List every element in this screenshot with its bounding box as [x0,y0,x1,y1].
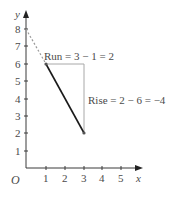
y-tick-label-6: 6 [15,58,21,70]
origin-label: O [11,173,20,187]
run-annotation: Run = 3 − 1 = 2 [44,50,114,62]
point-3-2 [82,131,85,134]
slope-diagram: 1 2 3 4 5 1 2 3 4 5 6 7 8 y x O Run = 3 … [0,0,182,201]
point-1-6 [44,62,47,65]
dashed-extension [26,29,46,64]
y-tick-label-4: 4 [15,93,21,105]
x-axis-label: x [135,172,141,184]
x-axis-arrow-icon [135,165,143,171]
x-tick-label-3: 3 [81,172,87,184]
rise-annotation: Rise = 2 − 6 = −4 [88,94,166,106]
y-tick-label-3: 3 [15,110,21,122]
y-tick-label-5: 5 [15,75,21,87]
x-tick-label-5: 5 [118,172,124,184]
x-tick-label-1: 1 [43,172,49,184]
x-tick-label-4: 4 [99,172,105,184]
y-tick-label-1: 1 [15,145,21,157]
y-tick-label-2: 2 [15,127,21,139]
y-axis-arrow-icon [23,10,29,18]
y-tick-label-8: 8 [15,23,21,35]
y-tick-label-7: 7 [15,40,21,52]
y-axis-label: y [14,8,20,20]
x-tick-label-2: 2 [62,172,68,184]
line-segment [46,64,84,133]
